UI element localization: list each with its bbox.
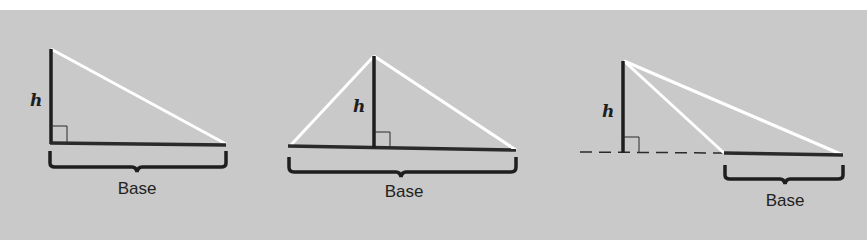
right-angle-marker xyxy=(51,126,67,143)
base-line xyxy=(724,153,843,155)
base-line xyxy=(50,143,226,145)
height-label: h xyxy=(602,101,614,121)
right-angle-marker xyxy=(374,132,390,148)
extended-base-dashed-line xyxy=(580,152,723,153)
base-label: Base xyxy=(118,179,157,198)
height-label: h xyxy=(353,96,365,116)
right-triangle-figure: h Base xyxy=(30,49,226,198)
base-brace xyxy=(289,157,516,177)
base-label: Base xyxy=(385,182,424,201)
acute-triangle-figure: h Base xyxy=(288,56,516,201)
right-side xyxy=(374,56,516,150)
obtuse-triangle-figure: h Base xyxy=(580,61,843,210)
long-side xyxy=(624,61,843,155)
right-angle-marker xyxy=(623,137,639,153)
base-line xyxy=(288,146,516,150)
base-label: Base xyxy=(766,191,805,210)
triangle-height-base-diagram: h Base h Base h Base xyxy=(0,0,867,249)
base-brace xyxy=(725,165,843,184)
height-label: h xyxy=(30,90,42,110)
base-brace xyxy=(50,151,226,172)
hypotenuse-side xyxy=(51,49,226,144)
